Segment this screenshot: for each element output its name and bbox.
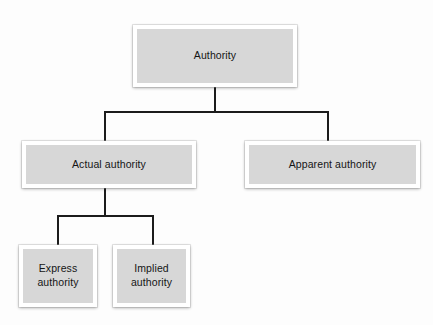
node-authority: Authority bbox=[133, 25, 297, 87]
connector-drop-to-express-authority bbox=[57, 215, 59, 246]
connector-level2-horizontal-bar bbox=[57, 215, 154, 217]
node-implied-authority: Implied authority bbox=[113, 245, 190, 307]
connector-authority-stem bbox=[214, 87, 216, 113]
connector-drop-to-implied-authority bbox=[152, 215, 154, 246]
node-authority-label: Authority bbox=[190, 49, 240, 63]
connector-actual-authority-stem bbox=[104, 188, 106, 217]
node-apparent-authority: Apparent authority bbox=[245, 141, 420, 188]
node-express-authority: Express authority bbox=[19, 245, 97, 307]
connector-drop-to-actual-authority bbox=[104, 111, 106, 142]
node-express-authority-label: Express authority bbox=[33, 262, 82, 290]
node-actual-authority: Actual authority bbox=[22, 141, 196, 188]
connector-level1-horizontal-bar bbox=[104, 111, 329, 113]
node-apparent-authority-label: Apparent authority bbox=[285, 158, 381, 172]
authority-hierarchy-diagram: Authority Actual authority Apparent auth… bbox=[0, 0, 433, 325]
connector-drop-to-apparent-authority bbox=[327, 111, 329, 142]
node-actual-authority-label: Actual authority bbox=[68, 158, 150, 172]
node-implied-authority-label: Implied authority bbox=[127, 262, 176, 290]
